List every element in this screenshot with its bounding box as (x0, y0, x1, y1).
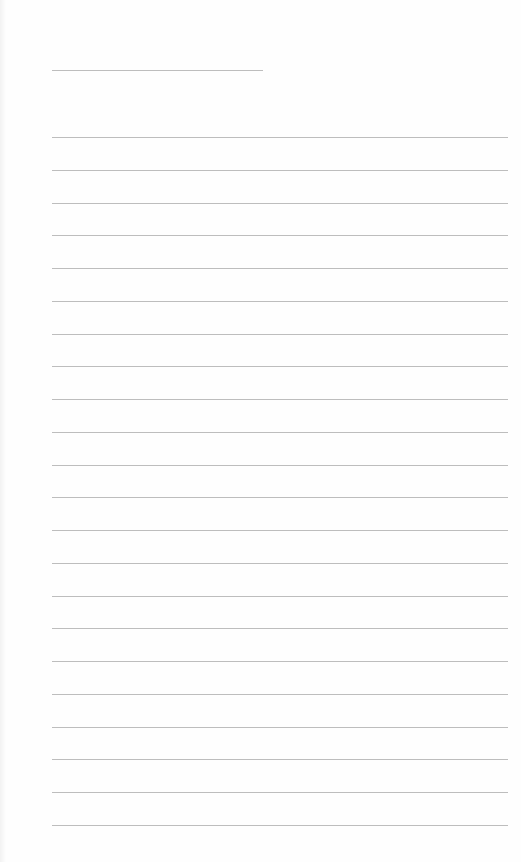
ruled-line (52, 432, 508, 433)
ruled-line (52, 235, 508, 236)
ruled-line (52, 694, 508, 695)
ruled-line (52, 366, 508, 367)
ruled-line (52, 170, 508, 171)
ruled-line (52, 727, 508, 728)
ruled-line (52, 792, 508, 793)
ruled-line (52, 825, 508, 826)
lined-paper-page (0, 0, 521, 862)
ruled-line (52, 497, 508, 498)
ruled-line (52, 759, 508, 760)
page-edge-shadow (0, 0, 6, 862)
ruled-line (52, 301, 508, 302)
ruled-line (52, 137, 508, 138)
title-line (52, 70, 263, 71)
ruled-line (52, 399, 508, 400)
ruled-line (52, 268, 508, 269)
ruled-line (52, 596, 508, 597)
ruled-line (52, 530, 508, 531)
ruled-line (52, 203, 508, 204)
ruled-line (52, 334, 508, 335)
ruled-line (52, 563, 508, 564)
ruled-line (52, 661, 508, 662)
ruled-line (52, 628, 508, 629)
ruled-line (52, 465, 508, 466)
